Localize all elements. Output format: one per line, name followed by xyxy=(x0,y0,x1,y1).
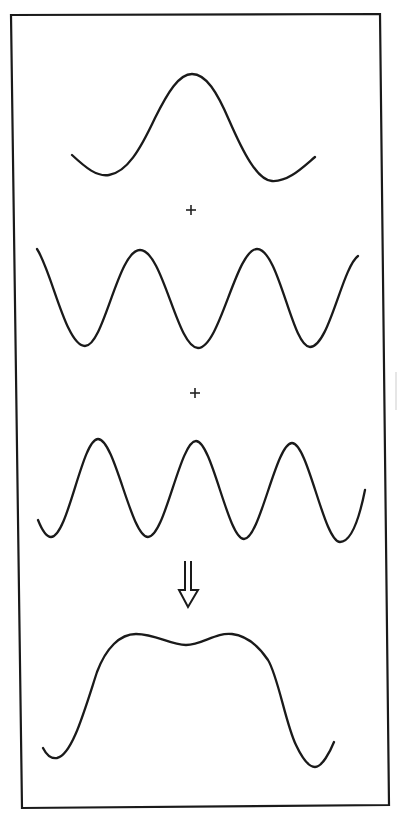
plus-icon xyxy=(190,388,200,398)
third-component-wave xyxy=(38,439,365,542)
second-component-wave xyxy=(37,249,358,348)
fourier-synthesis-diagram xyxy=(0,0,400,832)
fundamental-wave xyxy=(72,74,315,181)
resultant-wave xyxy=(43,634,334,767)
figure-frame xyxy=(11,14,389,808)
double-down-arrow-icon xyxy=(179,561,198,607)
plus-icon xyxy=(186,205,196,215)
